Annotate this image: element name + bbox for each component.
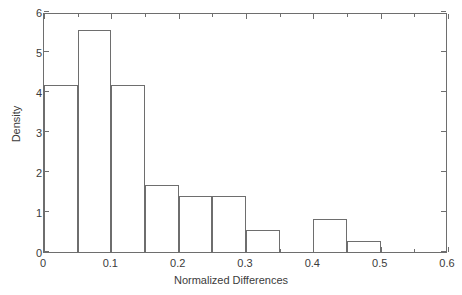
y-tick-label: 0 — [36, 247, 42, 259]
tick-mark — [78, 14, 79, 17]
tick-mark — [44, 11, 49, 12]
y-tick-label: 1 — [36, 207, 42, 219]
histogram-bar — [246, 230, 280, 252]
tick-mark — [441, 171, 446, 172]
histogram-bars — [44, 14, 446, 252]
tick-mark — [414, 249, 415, 252]
x-tick-label: 0.4 — [305, 257, 320, 270]
x-tick-label: 0.1 — [103, 257, 118, 270]
tick-mark — [441, 211, 446, 212]
tick-mark — [78, 249, 79, 252]
tick-mark — [212, 249, 213, 252]
tick-mark — [111, 14, 112, 19]
tick-mark — [448, 247, 449, 252]
tick-mark — [414, 14, 415, 17]
tick-mark — [347, 249, 348, 252]
plot-area — [43, 13, 447, 253]
x-tick-label: 0.3 — [237, 257, 252, 270]
tick-mark — [44, 211, 49, 212]
tick-mark — [212, 14, 213, 17]
tick-mark — [280, 249, 281, 252]
tick-mark — [280, 14, 281, 17]
tick-mark — [313, 247, 314, 252]
tick-mark — [441, 51, 446, 52]
tick-mark — [347, 14, 348, 17]
tick-mark — [448, 14, 449, 19]
x-tick-label: 0.2 — [170, 257, 185, 270]
tick-mark — [179, 14, 180, 19]
tick-mark — [44, 171, 49, 172]
histogram-bar — [313, 219, 347, 252]
x-tick-label: 0.6 — [439, 257, 454, 270]
tick-mark — [441, 91, 446, 92]
tick-mark — [313, 14, 314, 19]
tick-mark — [441, 11, 446, 12]
y-tick-label: 4 — [36, 87, 42, 99]
tick-mark — [381, 247, 382, 252]
tick-mark — [145, 249, 146, 252]
tick-mark — [111, 247, 112, 252]
tick-mark — [381, 14, 382, 19]
y-axis-label: Density — [10, 94, 22, 154]
tick-mark — [44, 51, 49, 52]
histogram-bar — [145, 185, 179, 252]
tick-mark — [246, 247, 247, 252]
y-tick-label: 5 — [36, 47, 42, 59]
tick-mark — [441, 131, 446, 132]
histogram-bar — [111, 85, 145, 252]
x-axis-label: Normalized Differences — [0, 274, 462, 286]
histogram-figure: 00.10.20.30.40.50.6 0123456 Normalized D… — [0, 0, 462, 295]
tick-mark — [44, 91, 49, 92]
histogram-bar — [347, 241, 381, 252]
y-tick-label: 2 — [36, 167, 42, 179]
tick-mark — [145, 14, 146, 17]
tick-mark — [441, 251, 446, 252]
histogram-bar — [44, 85, 78, 252]
y-tick-label: 3 — [36, 127, 42, 139]
tick-mark — [179, 247, 180, 252]
x-tick-label: 0.5 — [372, 257, 387, 270]
histogram-bar — [179, 196, 213, 252]
y-tick-label: 6 — [36, 7, 42, 19]
tick-mark — [246, 14, 247, 19]
tick-mark — [44, 131, 49, 132]
tick-mark — [44, 251, 49, 252]
tick-mark — [44, 14, 45, 19]
histogram-bar — [212, 196, 246, 252]
histogram-bar — [78, 30, 112, 252]
